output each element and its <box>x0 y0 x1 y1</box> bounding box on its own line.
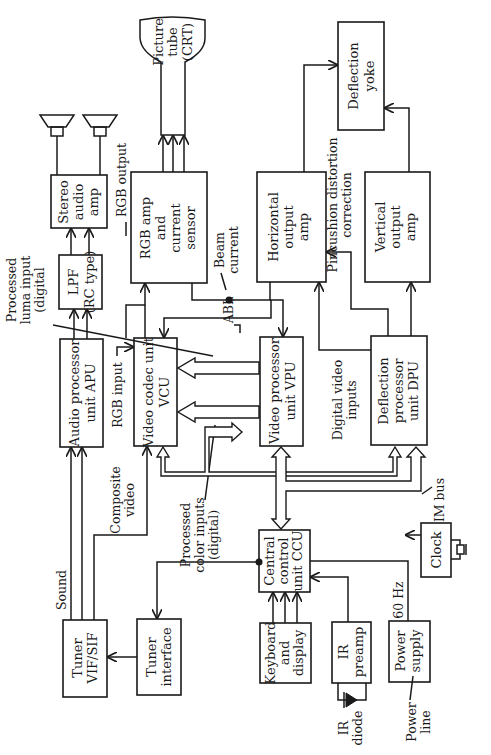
tuner-if-label-2: interface <box>159 627 174 687</box>
im-bus-label: IM bus <box>432 478 447 522</box>
horiz-amp-label-1: Horizontal <box>266 192 281 262</box>
rgb-amp-label-3: current <box>168 203 183 253</box>
digital-video-label-1: Digital video <box>330 360 345 440</box>
rgb-output-label: RGB output <box>114 143 129 217</box>
block-lpf: LPF (RC type) <box>59 251 102 314</box>
block-central-control-ccu: Central control unit CCU <box>259 530 310 592</box>
luma-label-2: luma input <box>18 256 33 324</box>
block-audio-processor-apu: Audio processor unit APU <box>60 339 103 448</box>
digital-video-label-2: inputs <box>344 380 359 420</box>
lpf-label-1: LPF <box>66 269 81 295</box>
tuner-if-label-1: Tuner <box>144 637 159 677</box>
crt-label-2: tube <box>165 27 180 57</box>
rgb-amp-label-2: and <box>153 216 168 240</box>
block-video-processor-vpu: Video processor unit VPU <box>260 337 303 446</box>
block-deflection-yoke: Deflection yoke <box>338 22 384 130</box>
rgb-input-label: RGB input <box>110 362 125 428</box>
rgb-amp-label-4: sensor <box>183 205 198 249</box>
power-label-2: supply <box>408 629 423 673</box>
keyboard-label-3: display <box>291 629 306 676</box>
block-vertical-output-amp: Vertical output amp <box>365 172 430 282</box>
block-video-codec-vcu: Video codec unit VCU <box>134 336 177 448</box>
vpu-label-2: unit VPU <box>283 361 298 420</box>
60hz-label: 60 Hz <box>391 581 406 619</box>
beam-current-label-2: current <box>226 226 241 273</box>
vert-amp-label-2: output <box>388 205 403 249</box>
dpu-label-2: processor <box>391 358 406 424</box>
block-keyboard-display: Keyboard and display <box>260 622 311 685</box>
block-tuner-vif-sif: Tuner VIF/SIF <box>63 620 107 697</box>
speaker-right-icon <box>83 115 117 175</box>
horiz-amp-label-2: output <box>281 205 296 249</box>
tuner-label-2: VIF/SIF <box>85 633 100 685</box>
lpf-label-2: (RC type) <box>82 251 97 314</box>
ccu-label-2: control <box>276 538 291 585</box>
rgb-amp-label-1: RGB amp <box>138 197 153 259</box>
sound-label: Sound <box>54 570 69 610</box>
ccu-label-1: Central <box>262 536 277 585</box>
apu-label-2: unit APU <box>83 363 98 422</box>
ir-diode-icon <box>338 683 366 708</box>
vcu-label-1: Video codec unit <box>141 336 156 448</box>
crt-label-1: Picture <box>151 18 166 66</box>
block-rgb-amp-current-sensor: RGB amp and current sensor <box>131 172 207 283</box>
block-power-supply: Power supply <box>389 621 430 682</box>
tv-block-diagram: Stereo audio amp LPF (RC type) Audio pro… <box>0 0 491 755</box>
crt-icon: Picture tube (CRT) <box>140 17 205 135</box>
block-deflection-processor-dpu: Deflection processor unit DPU <box>371 336 427 445</box>
clock-label: Clock <box>429 531 444 568</box>
apu-label-1: Audio processor <box>67 339 82 448</box>
tuner-label-1: Tuner <box>70 638 85 678</box>
block-ir-preamp: IR preamp <box>332 622 371 683</box>
ir-preamp-label-1: IR <box>336 643 351 659</box>
crystal-icon <box>451 540 466 559</box>
ccu-label-3: unit CCU <box>290 530 305 591</box>
crt-label-3: (CRT) <box>180 23 195 61</box>
block-tuner-interface: Tuner interface <box>137 619 181 695</box>
composite-label-1: Composite <box>108 466 123 533</box>
block-stereo-audio-amp: Stereo audio amp <box>51 175 107 228</box>
vert-amp-label-1: Vertical <box>373 202 388 254</box>
composite-label-2: video <box>122 483 137 518</box>
color-inputs-label-3: (digital) <box>206 510 221 560</box>
color-inputs-label-1: Processed <box>178 503 193 568</box>
luma-label-3: (digital <box>32 267 47 312</box>
abl-label: ABL <box>221 297 236 325</box>
dpu-label-3: unit DPU <box>406 361 421 421</box>
power-line-label-1: Power <box>404 702 419 742</box>
block-clock: Clock <box>421 523 451 577</box>
stereo-amp-label-2: audio <box>71 184 86 221</box>
yoke-label-1: Deflection <box>346 42 361 110</box>
block-horizontal-output-amp: Horizontal output amp <box>257 172 326 282</box>
color-bus-arrow <box>178 402 259 422</box>
stereo-amp-label-3: amp <box>86 188 101 216</box>
yoke-label-2: yoke <box>362 60 377 92</box>
speaker-left-icon <box>40 115 74 175</box>
beam-current-label-1: Beam <box>212 232 227 268</box>
power-label-1: Power <box>393 630 408 672</box>
pincushion-label-2: correction <box>339 172 354 237</box>
keyboard-label-2: and <box>277 641 292 665</box>
power-line-label-2: line <box>418 710 433 733</box>
stereo-amp-label-1: Stereo <box>56 180 71 224</box>
vert-amp-label-3: amp <box>403 213 418 241</box>
ir-diode-label-1: IR <box>336 720 351 735</box>
keyboard-label-1: Keyboard <box>263 622 278 685</box>
dpu-label-1: Deflection <box>376 357 391 425</box>
horiz-amp-label-3: amp <box>296 213 311 241</box>
ir-diode-label-2: diode <box>350 711 365 746</box>
ir-preamp-label-2: preamp <box>351 627 366 678</box>
luma-label-1: Processed <box>4 258 19 323</box>
vpu-label-1: Video processor <box>267 337 282 445</box>
luma-bus-arrow <box>178 358 259 378</box>
vcu-label-2: VCU <box>157 377 172 408</box>
